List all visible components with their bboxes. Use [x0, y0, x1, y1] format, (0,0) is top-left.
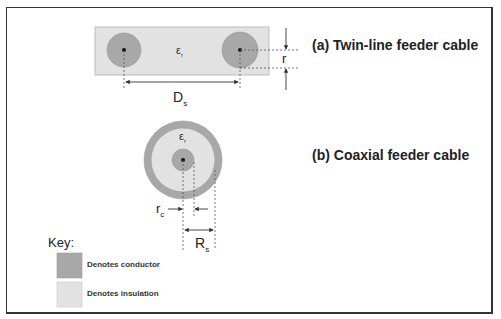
key-item-conductor: Denotes conductor — [87, 260, 160, 269]
twin-permittivity-label: εr — [176, 44, 183, 58]
r-label: r — [282, 51, 286, 66]
key-title: Key: — [48, 235, 74, 250]
rs-label: Rs — [195, 235, 209, 254]
coaxial-title: (b) Coaxial feeder cable — [312, 147, 469, 163]
key-item-insulation: Denotes insulation — [87, 289, 159, 298]
ds-label: Ds — [173, 89, 187, 108]
key-swatch-conductor — [57, 253, 82, 278]
rc-label: rc — [156, 201, 164, 219]
twin-line-title: (a) Twin-line feeder cable — [312, 37, 478, 53]
key-swatch-insulation — [57, 282, 82, 307]
coax-permittivity-label: εr — [179, 130, 186, 144]
twin-line-cable — [95, 27, 300, 90]
